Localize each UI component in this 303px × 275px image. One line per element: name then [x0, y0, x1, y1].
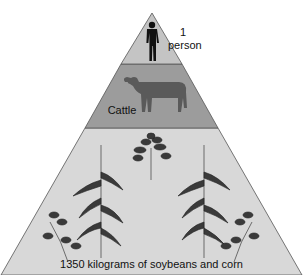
- pyramid-bottom-level: [1, 128, 302, 275]
- crops-label: 1350 kilograms of soybeans and corn: [30, 258, 273, 270]
- person-count: 1: [168, 26, 198, 39]
- cattle-label: Cattle: [102, 104, 142, 116]
- pyramid-diagram: [0, 0, 303, 275]
- person-unit: person: [168, 39, 198, 52]
- person-count-label: 1 person: [168, 26, 198, 52]
